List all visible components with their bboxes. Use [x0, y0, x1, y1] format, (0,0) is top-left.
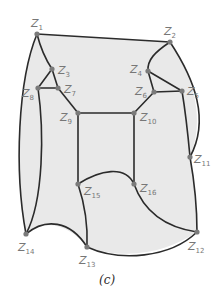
node-z14 — [23, 231, 28, 236]
planar-graph-diagram: Z1 Z2 Z3 Z4 Z5 Z6 Z7 Z8 Z9 Z10 Z11 Z12 Z… — [0, 0, 218, 300]
node-z15 — [75, 181, 80, 186]
node-z7 — [55, 85, 60, 90]
figure-caption: (c) — [99, 273, 115, 287]
label-z2: Z2 — [163, 25, 176, 40]
node-z16 — [131, 181, 136, 186]
label-z5: Z5 — [186, 85, 199, 100]
node-z10 — [131, 110, 136, 115]
node-z2 — [167, 39, 172, 44]
node-z8 — [35, 85, 40, 90]
node-z12 — [194, 229, 199, 234]
node-z4 — [145, 68, 150, 73]
label-z13: Z13 — [78, 254, 95, 269]
label-z1: Z1 — [30, 17, 43, 32]
node-z6 — [151, 89, 156, 94]
label-z11: Z11 — [193, 153, 210, 168]
node-z11 — [187, 154, 192, 159]
region-fill — [19, 34, 197, 254]
node-z1 — [34, 31, 39, 36]
label-z12: Z12 — [187, 240, 204, 255]
node-z9 — [75, 110, 80, 115]
label-z14: Z14 — [17, 241, 35, 256]
node-z5 — [179, 88, 184, 93]
node-z3 — [49, 66, 54, 71]
edge-z6-z5 — [154, 91, 182, 92]
node-z13 — [84, 244, 89, 249]
